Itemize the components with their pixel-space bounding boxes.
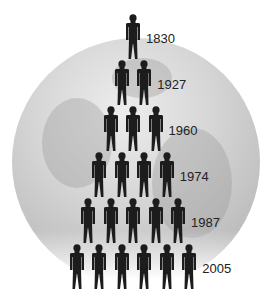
person-icon	[124, 14, 142, 60]
population-row: 1974	[0, 152, 270, 198]
year-label: 1927	[157, 77, 186, 92]
person-icon	[147, 198, 165, 244]
person-icon	[124, 198, 142, 244]
person-icon	[158, 244, 176, 290]
person-icon	[135, 244, 153, 290]
year-label: 1974	[180, 169, 209, 184]
person-icon	[79, 198, 97, 244]
population-row: 1830	[0, 14, 270, 60]
population-row: 1927	[0, 60, 270, 106]
person-icon	[147, 106, 165, 152]
person-icon	[68, 244, 86, 290]
person-icon	[90, 152, 108, 198]
population-row: 2005	[0, 244, 270, 290]
year-label: 1987	[191, 215, 220, 230]
person-icon	[135, 60, 153, 106]
year-label: 1830	[146, 31, 175, 46]
person-icon	[124, 106, 142, 152]
year-label: 1960	[169, 123, 198, 138]
year-label: 2005	[202, 261, 231, 276]
person-icon	[102, 106, 120, 152]
person-icon	[113, 60, 131, 106]
person-icon	[158, 152, 176, 198]
person-icon	[135, 152, 153, 198]
person-icon	[90, 244, 108, 290]
person-icon	[180, 244, 198, 290]
person-icon	[113, 244, 131, 290]
population-row: 1987	[0, 198, 270, 244]
person-icon	[169, 198, 187, 244]
person-icon	[113, 152, 131, 198]
person-icon	[102, 198, 120, 244]
population-row: 1960	[0, 106, 270, 152]
